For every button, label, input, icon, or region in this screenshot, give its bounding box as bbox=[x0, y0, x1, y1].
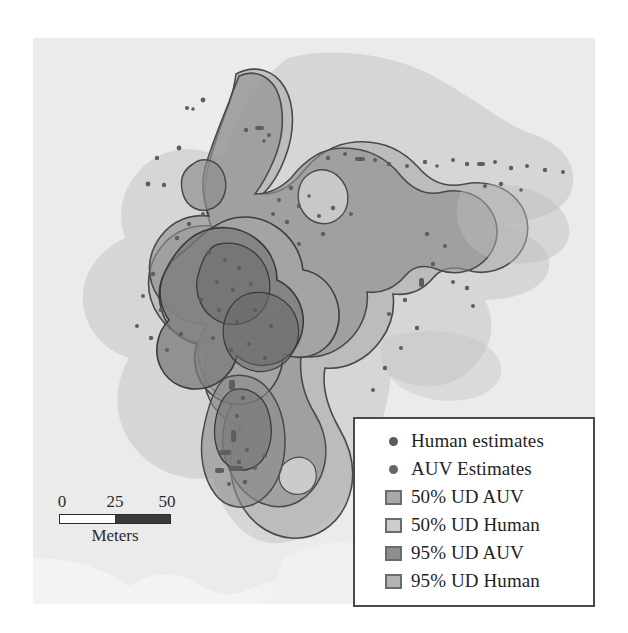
legend-label-auv-estimates: AUV Estimates bbox=[411, 458, 532, 480]
ud-lower-tail bbox=[202, 375, 286, 507]
legend-key-95-ud-human-swatch-icon bbox=[375, 574, 411, 589]
legend-label-95-ud-human: 95% UD Human bbox=[411, 570, 540, 592]
legend-label-95-ud-auv: 95% UD AUV bbox=[411, 542, 524, 564]
figure-root: 0 25 50 Meters Human estimates AUV Estim… bbox=[0, 0, 628, 633]
legend-item-50-ud-auv: 50% UD AUV bbox=[355, 483, 593, 511]
legend-item-95-ud-human: 95% UD Human bbox=[355, 567, 593, 595]
legend-key-auv-estimates-dot-icon bbox=[375, 465, 411, 474]
legend-item-human-estimates: Human estimates bbox=[355, 427, 593, 455]
legend-label-50-ud-auv: 50% UD AUV bbox=[411, 486, 524, 508]
scale-bar: 0 25 50 Meters bbox=[57, 492, 177, 550]
legend-item-95-ud-auv: 95% UD AUV bbox=[355, 539, 593, 567]
legend-label-human-estimates: Human estimates bbox=[411, 430, 544, 452]
legend-item-50-ud-human: 50% UD Human bbox=[355, 511, 593, 539]
legend-key-human-estimates-dot-icon bbox=[375, 437, 411, 446]
scale-segment-light bbox=[60, 515, 115, 523]
scale-units-label: Meters bbox=[57, 526, 173, 546]
legend-key-50-ud-human-swatch-icon bbox=[375, 518, 411, 533]
map-legend: Human estimates AUV Estimates 50% UD AUV… bbox=[353, 417, 595, 607]
scale-tick-25: 25 bbox=[107, 492, 124, 512]
legend-item-auv-estimates: AUV Estimates bbox=[355, 455, 593, 483]
scale-bar-ticks: 0 25 50 bbox=[57, 492, 177, 512]
legend-key-95-ud-auv-swatch-icon bbox=[375, 546, 411, 561]
scale-tick-0: 0 bbox=[58, 492, 67, 512]
legend-key-50-ud-auv-swatch-icon bbox=[375, 490, 411, 505]
scale-tick-50: 50 bbox=[159, 492, 176, 512]
scale-bar-graphic bbox=[59, 514, 171, 524]
scale-segment-dark bbox=[115, 515, 170, 523]
legend-label-50-ud-human: 50% UD Human bbox=[411, 514, 540, 536]
ud-small-lobe bbox=[181, 160, 225, 210]
